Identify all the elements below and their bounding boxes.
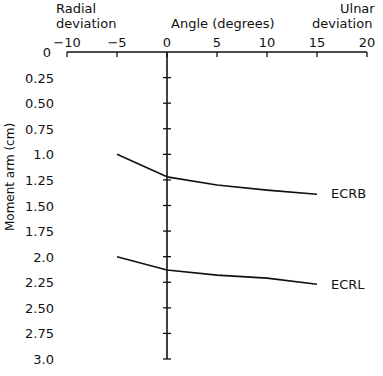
y-tick-label: 3.0	[33, 352, 54, 367]
y-tick-label: 0	[43, 45, 51, 60]
ulnar-deviation-label-line1: Ulnar	[340, 2, 375, 16]
y-tick-label: 2.0	[33, 250, 54, 265]
y-axis-title: Moment arm (cm)	[3, 122, 17, 232]
y-tick-label: 1.25	[25, 173, 54, 188]
x-tick-label: 10	[259, 35, 276, 50]
ecrb-series-line	[117, 154, 317, 194]
x-tick-label: 0	[163, 35, 171, 50]
ecrl-series-label: ECRL	[331, 278, 365, 292]
y-tick-label: 2.50	[25, 301, 54, 316]
y-tick-label: 1.50	[25, 199, 54, 214]
radial-deviation-label-line2: deviation	[56, 17, 116, 31]
y-tick-label: 0.75	[25, 122, 54, 137]
x-tick-label: 5	[213, 35, 221, 50]
ecrl-series-line	[117, 257, 317, 285]
x-axis-title: Angle (degrees)	[171, 17, 275, 31]
y-tick-label: 0.50	[25, 96, 54, 111]
chart-plot-area: −10−50510152000.250.500.751.01.251.501.7…	[0, 0, 383, 376]
y-tick-label: 2.25	[25, 275, 54, 290]
radial-deviation-label-line1: Radial	[56, 2, 96, 16]
ulnar-deviation-label-line2: deviation	[312, 17, 372, 31]
y-tick-label: 2.75	[25, 326, 54, 341]
y-tick-label: 0.25	[25, 71, 54, 86]
y-tick-label: 1.75	[25, 224, 54, 239]
ecrb-series-label: ECRB	[331, 187, 366, 201]
y-tick-label: 1.0	[33, 147, 54, 162]
x-tick-label: 20	[359, 35, 376, 50]
x-tick-label: 15	[309, 35, 326, 50]
x-tick-label: −5	[107, 35, 126, 50]
x-tick-label: −10	[53, 35, 80, 50]
